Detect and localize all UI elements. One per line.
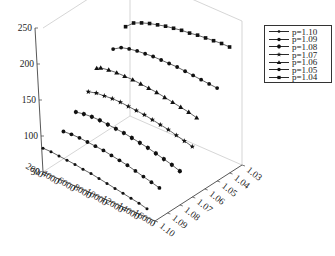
legend-item: p=1.04 [268, 74, 328, 82]
series-p=1.04 [124, 21, 232, 49]
svg-text:250: 250 [18, 23, 33, 33]
svg-text:150: 150 [22, 95, 37, 105]
series-p=1.09 [62, 130, 162, 190]
series-p=1.07 [86, 89, 195, 149]
marker-dot-icon [268, 66, 290, 73]
svg-text:100: 100 [24, 131, 39, 141]
marker-dot-small-icon [268, 28, 290, 35]
marker-triangle-icon [268, 59, 290, 66]
svg-text:16000: 16000 [132, 207, 158, 228]
series-p=1.06 [94, 65, 199, 119]
series-p=1.05 [111, 46, 219, 90]
svg-text:200: 200 [20, 59, 35, 69]
marker-square-icon [268, 74, 290, 81]
marker-dot-icon [268, 36, 290, 43]
marker-star-icon [268, 51, 290, 58]
legend: p=1.10 p=1.09 p=1.08 p=1.07 p=1.06 p=1.0… [264, 25, 332, 83]
axis-ticks: 5010015020025020004000600080001000012000… [18, 23, 264, 239]
marker-diamond-icon [268, 43, 290, 50]
legend-label: p=1.04 [292, 73, 317, 81]
